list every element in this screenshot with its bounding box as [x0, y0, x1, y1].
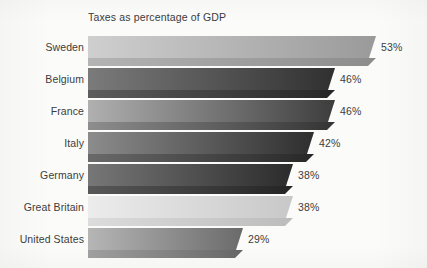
- bar-top-face: [88, 68, 335, 90]
- bar-top-face: [88, 100, 335, 122]
- bar-france: [88, 100, 335, 130]
- value-label: 42%: [319, 137, 340, 149]
- bar-bottom-face: [88, 58, 376, 66]
- bar-row: United States29%: [0, 228, 427, 258]
- bar-bottom-face: [88, 250, 243, 258]
- value-label: 38%: [298, 201, 319, 213]
- value-label: 46%: [340, 73, 361, 85]
- value-label: 46%: [340, 105, 361, 117]
- bar-top-face: [88, 228, 243, 250]
- bar-row: Belgium46%: [0, 68, 427, 98]
- bar-row: Germany38%: [0, 164, 427, 194]
- bar-row: France46%: [0, 100, 427, 130]
- value-label: 53%: [381, 41, 402, 53]
- bar-row: Sweden53%: [0, 36, 427, 66]
- bar-top-face: [88, 36, 376, 58]
- category-label: Sweden: [45, 41, 84, 53]
- category-label: Italy: [64, 137, 84, 149]
- bar-bottom-face: [88, 90, 335, 98]
- bar-row: Great Britain38%: [0, 196, 427, 226]
- value-label: 38%: [298, 169, 319, 181]
- bar-sweden: [88, 36, 376, 66]
- bar-row: Italy42%: [0, 132, 427, 162]
- chart-title: Taxes as percentage of GDP: [88, 11, 226, 23]
- bar-bottom-face: [88, 154, 314, 162]
- bar-belgium: [88, 68, 335, 98]
- bar-bottom-face: [88, 218, 293, 226]
- category-label: Belgium: [45, 73, 84, 85]
- bar-italy: [88, 132, 314, 162]
- bar-united-states: [88, 228, 243, 258]
- bar-top-face: [88, 132, 314, 154]
- bar-chart: Taxes as percentage of GDP Sweden53%Belg…: [0, 0, 427, 268]
- value-label: 29%: [248, 233, 269, 245]
- bar-bottom-face: [88, 186, 293, 194]
- bar-germany: [88, 164, 293, 194]
- bar-top-face: [88, 164, 293, 186]
- bar-great-britain: [88, 196, 293, 226]
- category-label: Great Britain: [24, 201, 84, 213]
- category-label: Germany: [40, 169, 84, 181]
- bar-bottom-face: [88, 122, 335, 130]
- category-label: France: [51, 105, 84, 117]
- category-label: United States: [20, 233, 84, 245]
- bar-top-face: [88, 196, 293, 218]
